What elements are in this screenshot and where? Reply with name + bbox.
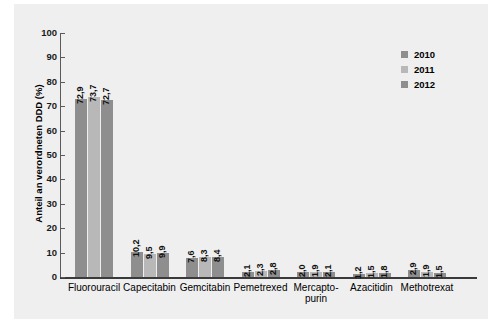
bar-2012-0	[101, 100, 113, 277]
x-axis-line	[60, 277, 477, 279]
bar-value-label: 2,0	[298, 265, 307, 278]
bar-value-label: 2,1	[243, 264, 252, 277]
y-axis-tick	[61, 204, 65, 205]
bar-value-label: 2,9	[409, 262, 418, 275]
bar-value-label: 10,2	[132, 240, 141, 258]
bar-value-label: 2,1	[324, 264, 333, 277]
bar-value-label: 1,9	[311, 265, 320, 278]
chart-legend: 201020112012	[401, 47, 435, 92]
y-axis-tick-label: 90	[17, 52, 57, 62]
bar-value-label: 1,8	[380, 265, 389, 278]
bar-value-label: 72,7	[102, 87, 111, 105]
bar-2010-0	[75, 99, 87, 277]
y-axis-tick	[61, 131, 65, 132]
category-label-line: Methotrexat	[379, 282, 475, 293]
y-axis-tick	[61, 82, 65, 83]
y-axis-tick	[61, 277, 65, 278]
y-axis-tick	[61, 57, 65, 58]
bar-value-label: 1,5	[435, 266, 444, 279]
y-axis-tick-label: 40	[17, 174, 57, 184]
bar-2011-0	[88, 97, 100, 277]
y-axis-tick-label: 30	[17, 199, 57, 209]
y-axis-tick	[61, 33, 65, 34]
y-axis-tick-label: 50	[17, 150, 57, 160]
legend-swatch-icon	[401, 81, 408, 88]
category-label-line: purin	[268, 293, 364, 304]
y-axis-tick-label: 100	[17, 28, 57, 38]
y-axis-tick	[61, 106, 65, 107]
y-axis-tick	[61, 253, 65, 254]
y-axis-tick	[61, 155, 65, 156]
legend-swatch-icon	[401, 51, 408, 58]
bar-value-label: 2,8	[269, 263, 278, 276]
y-axis-tick	[61, 179, 65, 180]
bar-value-label: 8,3	[200, 249, 209, 262]
y-axis-tick-label: 10	[17, 248, 57, 258]
bar-value-label: 2,3	[256, 264, 265, 277]
y-axis-tick-label: 20	[17, 223, 57, 233]
y-axis-tick-label: 60	[17, 126, 57, 136]
chart-figure: Anteil an verordneten DDD (%) 0102030405…	[0, 0, 494, 334]
legend-label: 2012	[414, 79, 435, 90]
bar-value-label: 9,5	[145, 246, 154, 259]
bar-value-label: 72,9	[76, 87, 85, 105]
bar-value-label: 7,6	[187, 251, 196, 264]
legend-item-2012: 2012	[401, 77, 435, 92]
bar-value-label: 1,9	[422, 265, 431, 278]
bar-value-label: 8,4	[213, 249, 222, 262]
category-label-6: Methotrexat	[379, 282, 475, 293]
y-axis-tick	[61, 228, 65, 229]
legend-item-2010: 2010	[401, 47, 435, 62]
bar-chart-plot: Anteil an verordneten DDD (%) 0102030405…	[0, 0, 494, 334]
bar-value-label: 1,5	[367, 266, 376, 279]
bar-value-label: 9,9	[158, 245, 167, 258]
legend-label: 2010	[414, 49, 435, 60]
legend-item-2011: 2011	[401, 62, 435, 77]
y-axis-tick-label: 70	[17, 101, 57, 111]
legend-swatch-icon	[401, 66, 408, 73]
y-axis-tick-label: 80	[17, 77, 57, 87]
y-axis-tick-label: 0	[17, 272, 57, 282]
legend-label: 2011	[414, 64, 435, 75]
bar-value-label: 73,7	[89, 85, 98, 103]
bar-value-label: 1,2	[354, 267, 363, 280]
